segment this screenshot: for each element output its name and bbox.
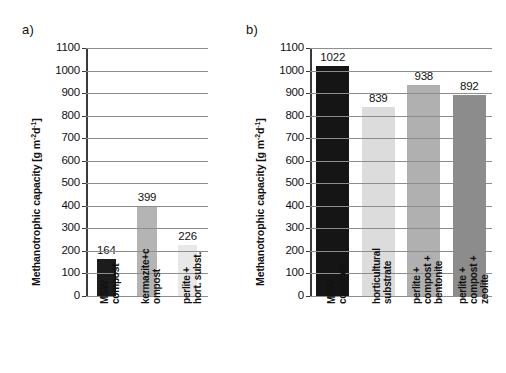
y-axis-tick-mark bbox=[306, 273, 310, 274]
y-axis-tick-label: 1100 bbox=[280, 42, 304, 54]
category-label-line: MSW bbox=[99, 280, 110, 304]
bar-slot: 164 bbox=[97, 48, 116, 296]
gridline bbox=[310, 93, 492, 94]
category-label-line: perlite + bbox=[411, 267, 422, 304]
y-axis-tick-mark bbox=[82, 93, 86, 94]
y-axis-tick-label: 0 bbox=[74, 290, 80, 302]
y-axis-tick-label: 800 bbox=[285, 110, 304, 122]
gridline bbox=[310, 251, 492, 252]
x-axis-category-label: perlite +compost +zeolite bbox=[457, 256, 490, 305]
y-axis-tick-mark bbox=[306, 161, 310, 162]
y-axis-tick-mark bbox=[82, 251, 86, 252]
y-axis-tick-mark bbox=[306, 206, 310, 207]
y-axis-tick-label: 100 bbox=[285, 268, 304, 280]
gridline bbox=[86, 116, 208, 117]
bar-value-label: 1022 bbox=[320, 52, 345, 64]
x-axis-category-label: horticulturalsubstrate bbox=[371, 248, 393, 304]
category-label-line: zeolite bbox=[479, 256, 490, 305]
category-label-line: ompost bbox=[151, 249, 162, 304]
y-axis-tick-label: 300 bbox=[285, 223, 304, 235]
y-axis-tick-mark bbox=[82, 116, 86, 117]
category-label-line: perlite + bbox=[181, 267, 192, 304]
y-axis-tick-mark bbox=[306, 71, 310, 72]
panel-b-y-axis-title: Methanotrophic capacity [g m-2d-1] bbox=[254, 118, 266, 286]
gridline bbox=[310, 48, 492, 49]
y-axis-tick-mark bbox=[306, 296, 310, 297]
y-axis-tick-mark bbox=[306, 138, 310, 139]
category-label-line: perlite + bbox=[457, 267, 468, 304]
gridline bbox=[310, 161, 492, 162]
x-axis-category-label: perlite +compost +bentonite bbox=[411, 256, 444, 305]
gridline bbox=[310, 71, 492, 72]
y-axis-tick-mark bbox=[82, 183, 86, 184]
category-label-line: substrate bbox=[382, 248, 393, 304]
category-label-line: MSW bbox=[326, 280, 337, 304]
y-axis-tick-mark bbox=[306, 48, 310, 49]
category-label-line: compost + bbox=[422, 256, 433, 305]
y-axis-tick-label: 900 bbox=[61, 87, 80, 99]
y-axis-tick-label: 900 bbox=[285, 87, 304, 99]
bar[interactable] bbox=[316, 66, 349, 296]
bar-value-label: 399 bbox=[138, 192, 157, 204]
y-axis-tick-label: 1000 bbox=[279, 65, 304, 77]
category-label-line: compost bbox=[110, 264, 121, 304]
gridline bbox=[310, 116, 492, 117]
gridline bbox=[86, 228, 208, 229]
y-axis-tick-label: 400 bbox=[285, 200, 304, 212]
panel-b: b) Methanotrophic capacity [g m-2d-1] 01… bbox=[232, 0, 506, 373]
y-axis-tick-label: 600 bbox=[61, 155, 80, 167]
x-axis-category-label: MSWcompost bbox=[326, 264, 348, 304]
category-label-line: kermazite+c bbox=[140, 249, 151, 304]
panel-a-tag: a) bbox=[22, 22, 34, 37]
y-axis-tick-label: 100 bbox=[61, 268, 80, 280]
bar-value-label: 938 bbox=[414, 71, 433, 83]
gridline bbox=[86, 93, 208, 94]
y-axis-tick-label: 300 bbox=[61, 223, 80, 235]
unit-exponent-area: -2 bbox=[30, 134, 37, 140]
x-axis-category-label: kermazite+compost bbox=[140, 249, 162, 304]
y-axis-tick-label: 700 bbox=[61, 132, 80, 144]
gridline bbox=[86, 71, 208, 72]
y-axis-tick-mark bbox=[82, 161, 86, 162]
category-label-line: bentonite bbox=[433, 256, 444, 305]
y-axis-tick-mark bbox=[82, 206, 86, 207]
panel-a-y-axis-title: Methanotrophic capacity [g m-2d-1] bbox=[30, 118, 42, 286]
y-axis-tick-label: 200 bbox=[285, 245, 304, 257]
panel-a: a) Methanotrophic capacity [g m-2d-1] 01… bbox=[0, 0, 232, 373]
y-axis-tick-label: 500 bbox=[61, 178, 80, 190]
unit-exponent-area: -2 bbox=[254, 134, 261, 140]
y-axis-tick-label: 1100 bbox=[56, 42, 80, 54]
category-label-line: compost bbox=[337, 264, 348, 304]
gridline bbox=[86, 183, 208, 184]
unit-exponent-day: -1 bbox=[30, 122, 37, 128]
gridline bbox=[310, 228, 492, 229]
y-axis-tick-mark bbox=[82, 228, 86, 229]
category-label-line: hort. subst. bbox=[192, 252, 203, 304]
y-axis-tick-mark bbox=[306, 116, 310, 117]
y-axis-tick-label: 0 bbox=[298, 290, 304, 302]
bar-value-label: 892 bbox=[460, 81, 479, 93]
y-axis-tick-mark bbox=[306, 183, 310, 184]
gridline bbox=[86, 206, 208, 207]
y-axis-tick-mark bbox=[306, 93, 310, 94]
y-axis-tick-label: 500 bbox=[285, 178, 304, 190]
gridline bbox=[86, 138, 208, 139]
category-label-line: compost + bbox=[468, 256, 479, 305]
y-axis-tick-mark bbox=[82, 71, 86, 72]
y-axis-tick-mark bbox=[306, 228, 310, 229]
bar-slot: 1022 bbox=[316, 48, 349, 296]
bar-value-label: 839 bbox=[369, 93, 388, 105]
y-axis-tick-label: 600 bbox=[285, 155, 304, 167]
figure-container: a) Methanotrophic capacity [g m-2d-1] 01… bbox=[0, 0, 506, 373]
x-axis-category-label: perlite +hort. subst. bbox=[181, 252, 203, 304]
y-axis-tick-mark bbox=[82, 138, 86, 139]
bar-value-label: 226 bbox=[178, 231, 197, 243]
unit-exponent-day: -1 bbox=[254, 122, 261, 128]
gridline bbox=[310, 206, 492, 207]
y-axis-tick-mark bbox=[306, 251, 310, 252]
y-axis-tick-mark bbox=[82, 48, 86, 49]
y-axis-tick-mark bbox=[82, 296, 86, 297]
gridline bbox=[310, 138, 492, 139]
y-axis-tick-label: 400 bbox=[61, 200, 80, 212]
y-axis-tick-label: 1000 bbox=[55, 65, 80, 77]
